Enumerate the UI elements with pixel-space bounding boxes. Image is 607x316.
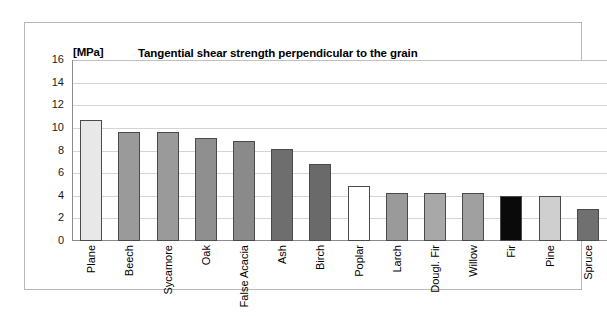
x-label-slot: Poplar — [340, 243, 378, 316]
x-tick-label-oak: Oak — [200, 225, 212, 245]
x-label-slot: Fir — [492, 243, 530, 316]
y-tick-label-14: 14 — [25, 76, 64, 89]
bar-slot — [263, 60, 301, 241]
x-label-slot: Oak — [187, 243, 225, 316]
x-tick-label-willow: Willow — [467, 213, 479, 245]
x-label-slot: False Acacia — [225, 243, 263, 316]
chart-title: Tangential shear strength perpendicular … — [138, 47, 418, 59]
y-tick-label-0: 0 — [25, 234, 64, 247]
x-label-slot: Ash — [263, 243, 301, 316]
x-label-slot: Larch — [378, 243, 416, 316]
x-tick-label-pine: Pine — [544, 223, 556, 245]
x-label-slot: Sycamore — [148, 243, 186, 316]
y-axis: 1614121086420 — [25, 60, 68, 241]
y-tick-label-2: 2 — [25, 211, 64, 224]
bar-series — [72, 60, 607, 241]
bar-slot — [72, 60, 110, 241]
bar-slot — [187, 60, 225, 241]
y-tick-label-12: 12 — [25, 98, 64, 111]
y-tick-label-10: 10 — [25, 121, 64, 134]
y-tick-label-8: 8 — [25, 144, 64, 157]
bar-slot — [301, 60, 339, 241]
x-tick-label-ash: Ash — [276, 226, 288, 245]
x-tick-label-sycamore: Sycamore — [162, 195, 174, 245]
x-label-slot: Plane — [72, 243, 110, 316]
x-tick-label-beech: Beech — [123, 214, 135, 245]
y-tick-label-4: 4 — [25, 189, 64, 202]
x-label-slot: Spruce — [569, 243, 607, 316]
x-label-slot: Willow — [454, 243, 492, 316]
chart-figure-frame: 1614121086420 PlaneBeechSycamoreOakFalse… — [24, 22, 582, 290]
x-label-slot: Birch — [301, 243, 339, 316]
bar-slot — [378, 60, 416, 241]
x-tick-label-plane: Plane — [85, 217, 97, 245]
x-tick-label-spruce: Spruce — [582, 210, 594, 245]
x-tick-label-poplar: Poplar — [353, 213, 365, 245]
y-tick-label-16: 16 — [25, 53, 64, 66]
x-tick-label-larch: Larch — [391, 217, 403, 245]
x-tick-label-dougl-fir: Dougl. Fir — [429, 197, 441, 245]
bar-slot — [531, 60, 569, 241]
x-tick-label-false-acacia: False Acacia — [238, 183, 250, 245]
y-tick-label-6: 6 — [25, 166, 64, 179]
y-axis-unit-label: [MPa] — [73, 46, 103, 58]
x-label-slot: Beech — [110, 243, 148, 316]
x-label-slot: Pine — [531, 243, 569, 316]
x-tick-label-fir: Fir — [505, 232, 517, 245]
x-tick-label-birch: Birch — [314, 220, 326, 245]
bar-slot — [492, 60, 530, 241]
x-label-slot: Dougl. Fir — [416, 243, 454, 316]
x-axis-category-labels: PlaneBeechSycamoreOakFalse AcaciaAshBirc… — [72, 243, 607, 316]
